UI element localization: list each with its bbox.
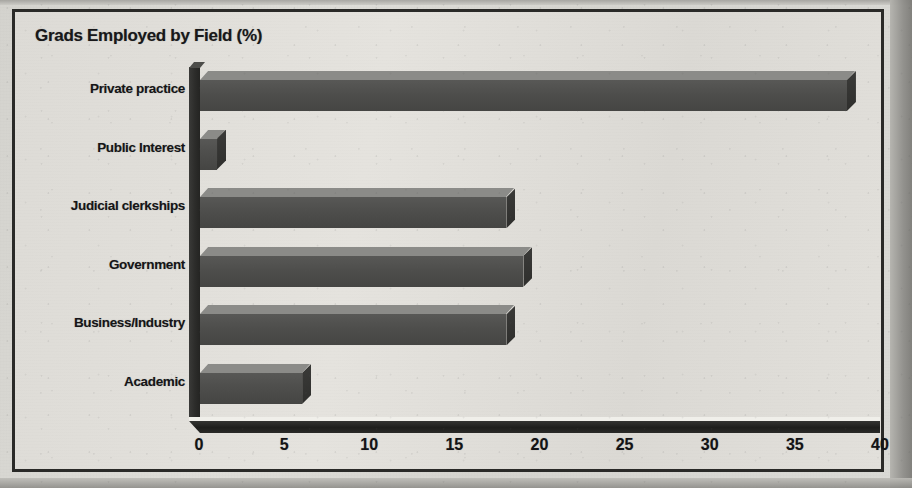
bar [200,247,523,278]
category-label: Judicial clerkships [25,198,185,213]
scan-edge-top [0,0,912,5]
bar-front-face [200,139,217,170]
value-axis-tick-labels: 0510152025303540 [15,436,881,462]
scan-edge-right [890,0,912,488]
value-tick-label: 30 [687,436,733,454]
bar-front-face [200,256,523,287]
bar-front-face [200,373,302,404]
value-tick-label: 0 [176,436,222,454]
value-tick-label: 25 [602,436,648,454]
value-axis-baseline [189,421,880,433]
bar-front-face [200,197,506,228]
value-tick-label: 5 [261,436,307,454]
scan-edge-bottom [0,478,912,488]
bar [200,188,506,219]
plot-area: Private practicePublic InterestJudicial … [15,12,881,469]
category-axis-labels: Private practicePublic InterestJudicial … [21,12,185,469]
category-label: Academic [25,374,185,389]
bar-top-face [200,364,310,373]
category-label: Public Interest [25,140,185,155]
category-label: Government [25,257,185,272]
bar [200,71,847,102]
axis-depth-wall-top [189,62,205,68]
bar [200,364,302,395]
bar [200,130,217,161]
value-tick-label: 10 [346,436,392,454]
scanned-page: Grads Employed by Field (%) Private prac… [0,0,912,488]
bar [200,305,506,336]
category-label: Private practice [25,81,185,96]
bar-top-face [200,247,532,256]
bar-top-face [200,71,855,80]
value-tick-label: 15 [431,436,477,454]
value-tick-label: 35 [772,436,818,454]
chart-figure-frame: Grads Employed by Field (%) Private prac… [12,9,884,472]
bar-top-face [200,188,515,197]
category-label: Business/Industry [25,315,185,330]
value-tick-label: 20 [517,436,563,454]
bar-front-face [200,80,847,111]
axis-depth-wall [189,67,200,421]
bar-front-face [200,314,506,345]
bar-top-face [200,305,515,314]
value-tick-label: 40 [857,436,903,454]
